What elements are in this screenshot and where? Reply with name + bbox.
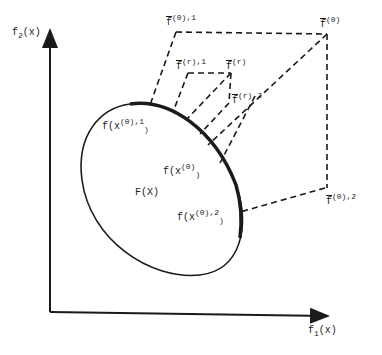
x-axis-label: f1(x) [308,326,337,338]
point-f0-2-label: f(0),2 [326,193,356,207]
curve-point-fx0-1-label: f(x(0),1) [102,118,149,134]
curve-point-fx0-2-label: f(x(0),2) [177,209,224,225]
curve-point-fx0-label: f(x(0)) [163,163,200,179]
region-label: F(X) [135,188,159,198]
point-f0-1-label: f(0),1 [166,14,196,28]
ideal-point-f0-label: f(0) [320,16,340,30]
x-axis [50,312,328,316]
point-fr-2-label: f(r),2 [232,92,262,106]
point-fr-label: f(r) [226,58,246,72]
y-axis-label: f2(x) [12,28,41,40]
point-fr-1-label: f(r),1 [176,58,206,72]
